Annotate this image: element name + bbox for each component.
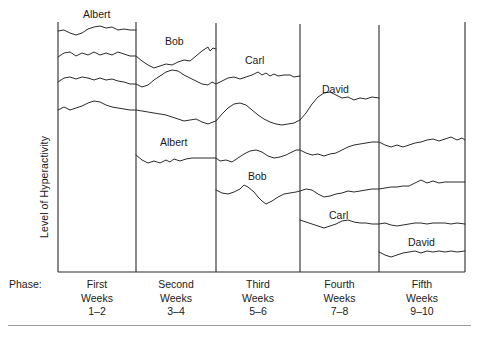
- trace-david-treatment: [379, 251, 465, 257]
- phase-caption-5: FifthWeeks9–10: [379, 278, 465, 319]
- phase-caption-ordinal: Fifth: [379, 278, 465, 292]
- trace-bob-baseline: [58, 47, 216, 68]
- phase-caption-1: FirstWeeks1–2: [58, 278, 136, 319]
- phase-caption-2: SecondWeeks3–4: [136, 278, 216, 319]
- phase-row-label: Phase:: [9, 278, 42, 290]
- phase-caption-unit: Weeks: [216, 292, 300, 306]
- trace-carl-baseline: [58, 70, 300, 87]
- phase-caption-range: 9–10: [379, 305, 465, 319]
- figure-container: Level of Hyperactivity Phase: FirstWeeks…: [0, 0, 479, 340]
- series-tag-david-baseline: David: [322, 83, 349, 95]
- phase-caption-range: 3–4: [136, 305, 216, 319]
- phase-caption-range: 5–6: [216, 305, 300, 319]
- phase-caption-range: 1–2: [58, 305, 136, 319]
- phase-caption-unit: Weeks: [300, 292, 379, 306]
- trace-david-baseline: [58, 92, 379, 125]
- phase-caption-unit: Weeks: [136, 292, 216, 306]
- trace-carl-treatment: [300, 220, 465, 228]
- phase-caption-ordinal: Third: [216, 278, 300, 292]
- trace-albert-baseline: [58, 26, 136, 35]
- phase-caption-4: FourthWeeks7–8: [300, 278, 379, 319]
- series-tag-david-treatment: David: [408, 236, 435, 248]
- phase-caption-ordinal: Second: [136, 278, 216, 292]
- series-tag-carl-baseline: Carl: [245, 54, 264, 66]
- series-tag-albert-treatment: Albert: [160, 136, 187, 148]
- phase-caption-ordinal: First: [58, 278, 136, 292]
- series-tag-bob-baseline: Bob: [165, 35, 184, 47]
- series-tag-albert-baseline: Albert: [83, 8, 110, 20]
- series-tag-carl-treatment: Carl: [329, 209, 348, 221]
- phase-caption-unit: Weeks: [58, 292, 136, 306]
- series-tag-bob-treatment: Bob: [248, 170, 267, 182]
- y-axis-title: Level of Hyperactivity: [38, 136, 50, 238]
- phase-caption-range: 7–8: [300, 305, 379, 319]
- phase-caption-ordinal: Fourth: [300, 278, 379, 292]
- phase-caption-unit: Weeks: [379, 292, 465, 306]
- trace-bob-treatment: [216, 180, 465, 204]
- phase-caption-3: ThirdWeeks5–6: [216, 278, 300, 319]
